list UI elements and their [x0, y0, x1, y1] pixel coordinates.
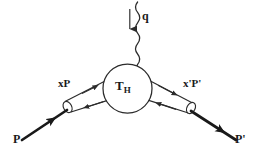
feynman-diagram-figure: q xP x'P' P P' TH [0, 0, 259, 161]
hard-scattering-label-sub: H [124, 85, 131, 95]
hard-scattering-label: TH [115, 79, 131, 95]
incoming-hadron-label: P [13, 133, 20, 145]
outgoing-hadron-line [191, 111, 236, 140]
outgoing-hadron-label: P' [235, 133, 246, 145]
hard-scattering-label-main: T [115, 78, 124, 93]
wavy-photon-line [136, 2, 140, 72]
photon-momentum-label: q [142, 10, 149, 22]
incoming-hadron-line [22, 110, 67, 140]
right-parton-label: x'P' [183, 78, 201, 89]
left-parton-label: xP [58, 78, 70, 89]
